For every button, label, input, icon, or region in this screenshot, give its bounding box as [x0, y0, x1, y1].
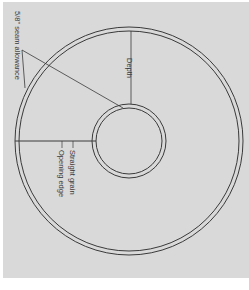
opening-edge-label: Opening edge [57, 150, 66, 197]
straight-grain-label: Straight grain [68, 150, 77, 195]
seam-leader-inner [22, 50, 123, 108]
seam-allowance-label: 5/8" seam allowance [13, 11, 22, 80]
inner-cutting-circle [92, 104, 166, 178]
depth-label: Depth [125, 58, 134, 78]
inner-seam-circle [96, 108, 162, 174]
circular-pattern-diagram: 5/8" seam allowance Depth Straight grain… [0, 0, 249, 290]
